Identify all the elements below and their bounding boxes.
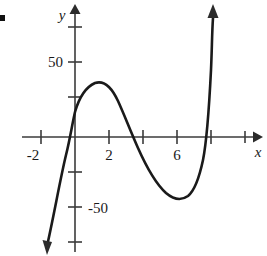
cubic-curve-group [43, 4, 219, 255]
y-axis [68, 4, 82, 252]
curve-top-arrowhead-icon [208, 4, 219, 18]
y-axis-arrowhead-icon [70, 4, 81, 14]
x-axis-arrowhead-icon [253, 132, 263, 143]
cubic-curve-path [47, 18, 213, 246]
x-axis-label: x [254, 144, 262, 160]
x-tick-label-2: 2 [105, 147, 113, 163]
cubic-function-graph-figure: -2 2 6 50 -50 y x [0, 0, 267, 256]
x-tick-label-6: 6 [173, 147, 181, 163]
curve-bottom-arrowhead-icon [43, 240, 53, 255]
x-tick-label--2: -2 [27, 147, 40, 163]
y-tick-label-50: 50 [48, 54, 63, 70]
bullet-marker-icon [0, 15, 5, 21]
x-axis [22, 130, 263, 144]
y-tick-label--50: -50 [88, 200, 108, 216]
graph-canvas: -2 2 6 50 -50 y x [0, 0, 267, 256]
y-axis-label: y [57, 7, 66, 23]
